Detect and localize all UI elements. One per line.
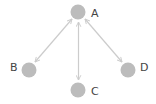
node-label-b: B <box>10 61 18 74</box>
node-label-a: A <box>91 7 99 20</box>
graph-diagram: A B C D <box>0 0 156 104</box>
node-b[interactable] <box>22 63 37 78</box>
edge-a-d <box>85 19 122 62</box>
edge-a-b <box>35 19 72 62</box>
node-a[interactable] <box>71 5 86 20</box>
node-label-c: C <box>91 85 99 98</box>
node-c[interactable] <box>71 83 86 98</box>
edges <box>35 19 122 80</box>
node-label-d: D <box>140 61 148 74</box>
node-d[interactable] <box>121 63 136 78</box>
